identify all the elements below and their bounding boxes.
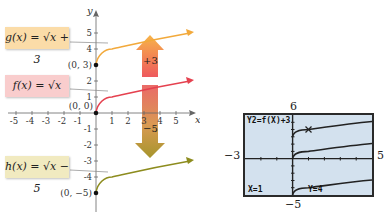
calc-ymin-label: −5 bbox=[285, 198, 301, 211]
calc-h-curve bbox=[293, 180, 372, 195]
svg-text:2: 2 bbox=[125, 116, 130, 126]
calc-x-value: X=1 bbox=[248, 185, 262, 194]
calc-ymax-label: 6 bbox=[290, 100, 297, 113]
calc-f-curve bbox=[293, 144, 372, 159]
calc-function-label: Y2=f(X)+3 bbox=[247, 116, 290, 125]
point-0-3 bbox=[94, 63, 99, 68]
calc-graph bbox=[245, 115, 372, 195]
h-function-label: h(x) = √x − 5 bbox=[5, 156, 69, 178]
g-label-pointer bbox=[70, 42, 108, 43]
svg-text:-4: -4 bbox=[26, 116, 34, 126]
svg-text:4: 4 bbox=[87, 44, 92, 54]
f-curve-arrow-icon bbox=[186, 77, 194, 84]
h-curve bbox=[96, 161, 190, 193]
svg-text:4: 4 bbox=[157, 116, 162, 126]
g-curve-arrow-icon bbox=[186, 29, 194, 36]
f-function-label: f(x) = √x bbox=[5, 75, 69, 97]
svg-text:-1: -1 bbox=[84, 124, 92, 134]
svg-text:-2: -2 bbox=[84, 140, 92, 150]
svg-text:5: 5 bbox=[87, 28, 92, 38]
calculator-screen: Y2=f(X)+3 X=1 Y=4 bbox=[243, 113, 374, 197]
h-curve-arrow-icon bbox=[186, 157, 194, 164]
svg-text:-3: -3 bbox=[84, 156, 92, 166]
point-label-0-0: (0, 0) bbox=[69, 101, 93, 111]
up-shift-label: +3 bbox=[143, 55, 158, 66]
calc-xmin-label: −3 bbox=[224, 149, 240, 162]
point-label-0-3: (0, 3) bbox=[68, 60, 92, 70]
x-axis bbox=[8, 111, 192, 115]
svg-text:-5: -5 bbox=[10, 116, 18, 126]
svg-text:5: 5 bbox=[173, 116, 178, 126]
svg-text:1: 1 bbox=[109, 116, 114, 126]
f-label-pointer bbox=[70, 89, 108, 91]
svg-text:-4: -4 bbox=[84, 172, 92, 182]
point-label-0-neg5: (0, −5) bbox=[60, 188, 92, 198]
svg-text:3: 3 bbox=[141, 116, 146, 126]
calc-xmax-label: 5 bbox=[377, 149, 384, 162]
g-function-label: g(x) = √x + 3 bbox=[5, 27, 69, 49]
y-axis-label: y bbox=[86, 5, 93, 16]
x-axis-label: x bbox=[195, 114, 200, 125]
svg-text:-1: -1 bbox=[74, 116, 82, 126]
y-axis-arrow-icon bbox=[93, 10, 99, 17]
calc-g-curve bbox=[293, 122, 372, 137]
svg-text:-2: -2 bbox=[58, 116, 66, 126]
svg-text:2: 2 bbox=[87, 76, 92, 86]
point-0-0 bbox=[94, 111, 99, 116]
calc-y-value: Y=4 bbox=[308, 185, 322, 194]
svg-text:-3: -3 bbox=[42, 116, 50, 126]
point-0-neg5 bbox=[94, 191, 99, 196]
